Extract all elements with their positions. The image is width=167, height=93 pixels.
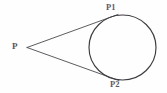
tangent-circle-diagram: P P1 P2 [0, 0, 167, 93]
circle-shape [89, 15, 156, 80]
geometry-canvas [0, 0, 167, 93]
label-tangent-point-p2: P2 [110, 80, 119, 89]
label-tangent-point-p1: P1 [106, 3, 115, 12]
label-external-point-p: P [12, 42, 18, 51]
